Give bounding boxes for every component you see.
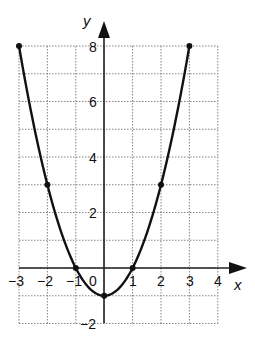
data-point <box>158 182 164 188</box>
y-axis-arrow-icon <box>98 21 110 38</box>
x-tick-2: 2 <box>157 273 165 289</box>
x-tick-neg2: −2 <box>37 273 53 289</box>
x-tick-4: 4 <box>214 273 222 289</box>
parabola-chart: y x 8 6 4 2 −2 −3 −2 −1 0 1 2 3 4 <box>0 0 255 353</box>
data-point <box>186 43 192 49</box>
data-point <box>44 182 50 188</box>
y-tick-6: 6 <box>89 94 97 110</box>
y-tick-8: 8 <box>89 39 97 55</box>
data-point <box>101 293 107 299</box>
x-tick-neg1: −1 <box>66 273 82 289</box>
data-point <box>130 265 136 271</box>
x-tick-0: 0 <box>89 273 97 289</box>
y-axis-label: y <box>82 12 92 29</box>
x-axis-label: x <box>233 276 242 293</box>
x-axis-arrow-icon <box>229 262 247 274</box>
y-tick-2: 2 <box>89 205 97 221</box>
data-point <box>16 43 22 49</box>
x-tick-1: 1 <box>129 273 137 289</box>
y-tick-4: 4 <box>89 150 97 166</box>
x-tick-neg3: −3 <box>8 273 24 289</box>
y-tick-neg2: −2 <box>80 316 96 332</box>
x-tick-3: 3 <box>186 273 194 289</box>
data-point <box>73 265 79 271</box>
